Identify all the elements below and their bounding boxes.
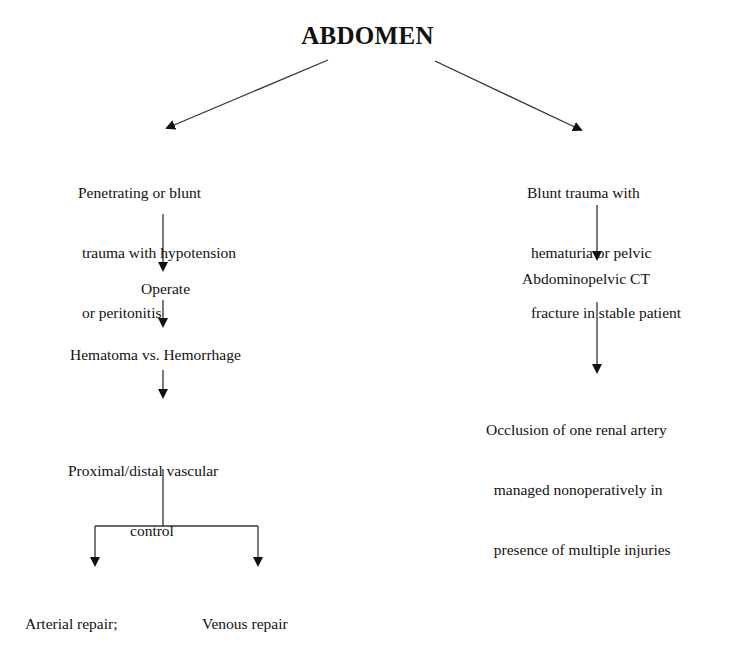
node-line: Penetrating or blunt (78, 183, 236, 203)
node-blunt-trauma: Blunt trauma with hematuria or pelvic fr… (527, 143, 681, 343)
node-line: trauma with hypotension (78, 243, 236, 263)
node-line: presence of multiple injuries (486, 540, 671, 560)
arrow-abdomen-to-blunt (435, 61, 581, 130)
node-abdominopelvic-ct: Abdominopelvic CT (522, 269, 650, 289)
node-vascular-control: Proximal/distal vascular control (68, 421, 218, 561)
node-venous-repair: Venous repair or ligation (202, 574, 288, 663)
node-line: Proximal/distal vascular (68, 461, 218, 481)
node-line: managed nonoperatively in (486, 480, 671, 500)
node-arterial-repair: Arterial repair; or shunt if “damage con… (25, 574, 146, 663)
node-line: Arterial repair; (25, 614, 146, 634)
node-line: Venous repair (202, 614, 288, 634)
node-hematoma-vs-hemorrhage: Hematoma vs. Hemorrhage (70, 345, 241, 365)
node-operate: Operate (141, 279, 190, 299)
node-line: fracture in stable patient (527, 303, 681, 323)
arrow-abdomen-to-penetrating (167, 60, 328, 128)
node-penetrating-trauma: Penetrating or blunt trauma with hypoten… (78, 143, 236, 343)
node-line: or peritonitis (78, 303, 236, 323)
node-line: control (68, 521, 218, 541)
node-line: Occlusion of one renal artery (486, 420, 671, 440)
node-renal-artery-occlusion: Occlusion of one renal artery managed no… (486, 380, 671, 580)
node-line: Blunt trauma with (527, 183, 681, 203)
node-line: hematuria or pelvic (527, 243, 681, 263)
